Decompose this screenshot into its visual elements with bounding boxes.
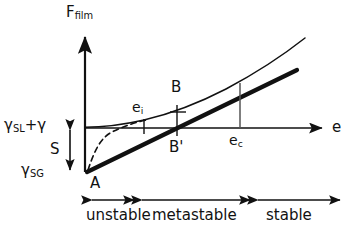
tick-label-e-c-sub: c bbox=[238, 138, 243, 149]
spreading-coefficient-label: S bbox=[50, 142, 60, 157]
tick-label-e-c: ec bbox=[229, 133, 243, 148]
tick-label-e-i: ei bbox=[132, 100, 143, 115]
figure-container: Ffilm e γSL+γ S γSG A ei B B' ec unstabl… bbox=[0, 0, 353, 234]
gamma-sl-prefix: γ bbox=[4, 116, 13, 134]
tick-label-e-i-sub: i bbox=[141, 105, 144, 116]
gamma-sl-suffix: +γ bbox=[25, 116, 46, 134]
point-b-label: B bbox=[171, 80, 181, 95]
x-axis-label: e bbox=[332, 120, 341, 135]
tick-label-e-i-main: e bbox=[132, 99, 141, 115]
gamma-sg-sub: SG bbox=[30, 168, 44, 179]
tangent-line bbox=[87, 70, 297, 172]
gamma-sl-plus-gamma-label: γSL+γ bbox=[4, 118, 46, 134]
point-b-prime-label: B' bbox=[169, 140, 183, 155]
diagram-canvas bbox=[0, 0, 353, 234]
y-axis-label: Ffilm bbox=[66, 5, 93, 21]
region-label-stable: stable bbox=[266, 208, 312, 223]
gamma-sg-prefix: γ bbox=[21, 161, 30, 179]
y-axis-label-sub: film bbox=[75, 10, 94, 21]
region-label-unstable: unstable bbox=[86, 208, 151, 223]
region-label-metastable: metastable bbox=[152, 208, 237, 223]
point-a-label: A bbox=[90, 176, 100, 191]
tick-label-e-c-main: e bbox=[229, 132, 238, 148]
gamma-sg-label: γSG bbox=[21, 163, 44, 179]
y-axis-label-main: F bbox=[66, 3, 75, 21]
gamma-sl-sub: SL bbox=[13, 123, 25, 134]
